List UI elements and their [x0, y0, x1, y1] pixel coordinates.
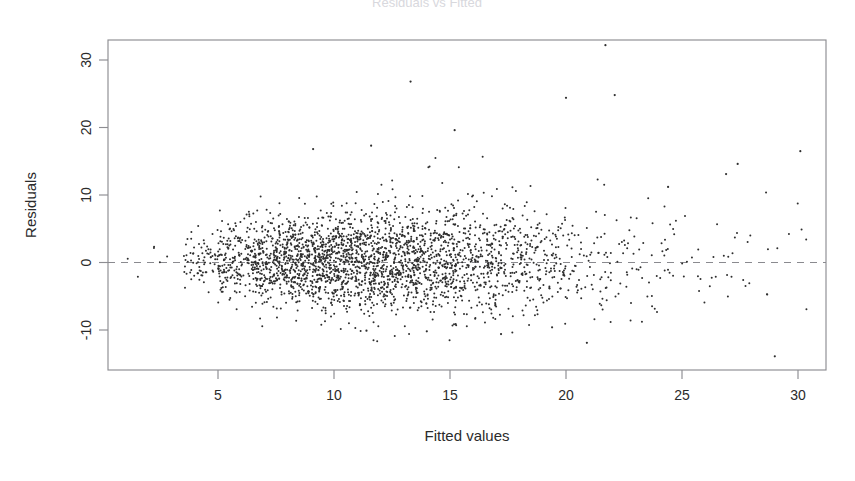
- scatter-point: [504, 269, 506, 271]
- scatter-point: [200, 246, 202, 248]
- scatter-point: [248, 215, 250, 217]
- scatter-point: [338, 298, 340, 300]
- scatter-point: [422, 208, 424, 210]
- scatter-point: [511, 283, 513, 285]
- scatter-point: [491, 243, 493, 245]
- scatter-point: [667, 186, 669, 188]
- scatter-point: [405, 270, 407, 272]
- scatter-point: [407, 293, 409, 295]
- scatter-point: [401, 283, 403, 285]
- scatter-point: [298, 261, 300, 263]
- scatter-point: [387, 255, 389, 257]
- scatter-point: [467, 266, 469, 268]
- scatter-point: [321, 225, 323, 227]
- scatter-point: [416, 251, 418, 253]
- scatter-point: [414, 259, 416, 261]
- scatter-point: [320, 324, 322, 326]
- scatter-point: [402, 267, 404, 269]
- scatter-point: [212, 269, 214, 271]
- scatter-point: [699, 278, 701, 280]
- scatter-point: [332, 279, 334, 281]
- scatter-point: [323, 266, 325, 268]
- scatter-point: [415, 249, 417, 251]
- scatter-point: [485, 260, 487, 262]
- scatter-point: [300, 259, 302, 261]
- scatter-point: [369, 293, 371, 295]
- scatter-point: [408, 333, 410, 335]
- scatter-point: [393, 276, 395, 278]
- scatter-point: [659, 277, 661, 279]
- scatter-point: [521, 251, 523, 253]
- scatter-point: [766, 293, 768, 295]
- scatter-point: [223, 259, 225, 261]
- scatter-point: [247, 247, 249, 249]
- scatter-point: [325, 264, 327, 266]
- scatter-point: [424, 295, 426, 297]
- scatter-point: [481, 304, 483, 306]
- scatter-point: [253, 255, 255, 257]
- scatter-point: [477, 257, 479, 259]
- scatter-point: [453, 247, 455, 249]
- scatter-point: [477, 261, 479, 263]
- scatter-point: [586, 227, 588, 229]
- scatter-point: [137, 276, 139, 278]
- scatter-point: [555, 246, 557, 248]
- scatter-point: [514, 238, 516, 240]
- scatter-point: [446, 285, 448, 287]
- scatter-point: [446, 277, 448, 279]
- scatter-point: [749, 234, 751, 236]
- scatter-point: [440, 294, 442, 296]
- scatter-point: [345, 250, 347, 252]
- scatter-point: [259, 272, 261, 274]
- scatter-point: [571, 232, 573, 234]
- scatter-point: [318, 248, 320, 250]
- scatter-point: [296, 248, 298, 250]
- scatter-point: [435, 288, 437, 290]
- scatter-point: [326, 237, 328, 239]
- scatter-point: [266, 268, 268, 270]
- scatter-point: [218, 265, 220, 267]
- scatter-point: [232, 249, 234, 251]
- scatter-point: [509, 220, 511, 222]
- scatter-point: [302, 244, 304, 246]
- scatter-point: [564, 219, 566, 221]
- scatter-point: [344, 283, 346, 285]
- scatter-point: [322, 272, 324, 274]
- scatter-point: [383, 264, 385, 266]
- scatter-point: [229, 297, 231, 299]
- scatter-point: [434, 157, 436, 159]
- scatter-point: [295, 258, 297, 260]
- scatter-point: [415, 290, 417, 292]
- scatter-point: [278, 202, 280, 204]
- scatter-point: [405, 285, 407, 287]
- scatter-point: [675, 220, 677, 222]
- scatter-point: [373, 253, 375, 255]
- scatter-point: [385, 220, 387, 222]
- scatter-point: [286, 243, 288, 245]
- scatter-point: [427, 307, 429, 309]
- scatter-point: [638, 269, 640, 271]
- scatter-point: [542, 301, 544, 303]
- scatter-point: [536, 246, 538, 248]
- scatter-point: [444, 207, 446, 209]
- scatter-point: [476, 305, 478, 307]
- scatter-point: [343, 235, 345, 237]
- scatter-point: [453, 207, 455, 209]
- scatter-point: [360, 330, 362, 332]
- scatter-point: [320, 236, 322, 238]
- scatter-point: [452, 242, 454, 244]
- scatter-point: [336, 289, 338, 291]
- scatter-point: [291, 250, 293, 252]
- scatter-point: [399, 222, 401, 224]
- scatter-point: [272, 283, 274, 285]
- scatter-point: [210, 256, 212, 258]
- scatter-point: [298, 285, 300, 287]
- scatter-point: [127, 258, 129, 260]
- scatter-point: [411, 262, 413, 264]
- scatter-point: [583, 254, 585, 256]
- scatter-point: [437, 275, 439, 277]
- scatter-point: [330, 278, 332, 280]
- scatter-point: [378, 229, 380, 231]
- scatter-point: [360, 248, 362, 250]
- scatter-point: [236, 282, 238, 284]
